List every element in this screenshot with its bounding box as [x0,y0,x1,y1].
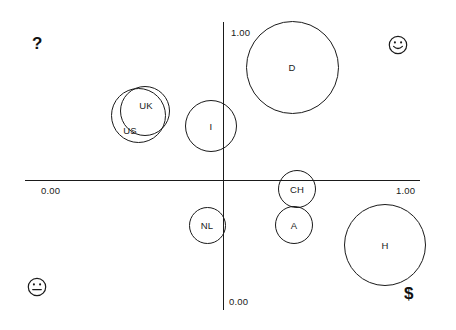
bubble-label-ch: CH [290,184,304,195]
dollar-sign-icon: $ [404,284,413,304]
bubble-label-i: I [210,121,213,132]
y-axis-line [223,22,224,310]
bubble-chart: 1.00 0.00 0.00 1.00 ? $ DIUKUSCHANLH [0,0,456,330]
y-axis-tick-bottom: 0.00 [229,296,248,307]
happy-face-icon [388,35,408,55]
bubble-label-d: D [288,62,295,73]
bubble-label-uk: UK [139,100,153,111]
neutral-face-icon [27,277,47,297]
bubble-label-h: H [381,240,388,251]
bubble-label-a: A [291,220,298,231]
bubble-label-us: US [123,125,137,136]
y-axis-tick-top: 1.00 [231,27,250,38]
bubble-label-nl: NL [201,220,214,231]
bubble-us [111,88,166,143]
x-axis-tick-left: 0.00 [41,185,60,196]
x-axis-tick-right: 1.00 [396,185,415,196]
question-mark-icon: ? [32,34,42,54]
